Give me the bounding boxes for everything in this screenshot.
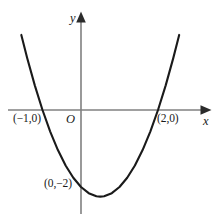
- label-root-right: (2,0): [157, 113, 179, 125]
- y-axis-label: y: [70, 12, 76, 25]
- label-root-left: (−1,0): [13, 113, 41, 125]
- origin-label: O: [66, 113, 75, 126]
- coordinate-plot: [0, 0, 220, 221]
- parabola-figure: (−1,0) (2,0) (0,−2) y x O: [0, 0, 220, 221]
- label-y-intercept: (0,−2): [44, 178, 72, 190]
- y-axis-arrowhead: [76, 12, 86, 23]
- x-axis-label: x: [203, 115, 209, 128]
- parabola-curve: [21, 35, 179, 197]
